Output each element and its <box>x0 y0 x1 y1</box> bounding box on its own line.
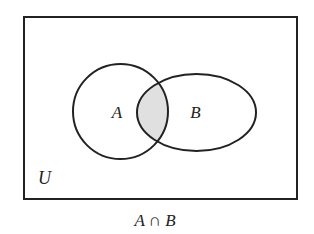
set-a-label: A <box>111 103 123 122</box>
venn-diagram: A B U A∩B <box>0 0 314 234</box>
universe-label: U <box>38 168 52 188</box>
set-b-label: B <box>190 103 201 122</box>
caption-left-operand: A <box>133 211 145 230</box>
caption: A∩B <box>133 211 176 230</box>
caption-right-operand: B <box>165 211 176 230</box>
caption-intersection-symbol: ∩ <box>149 211 161 230</box>
